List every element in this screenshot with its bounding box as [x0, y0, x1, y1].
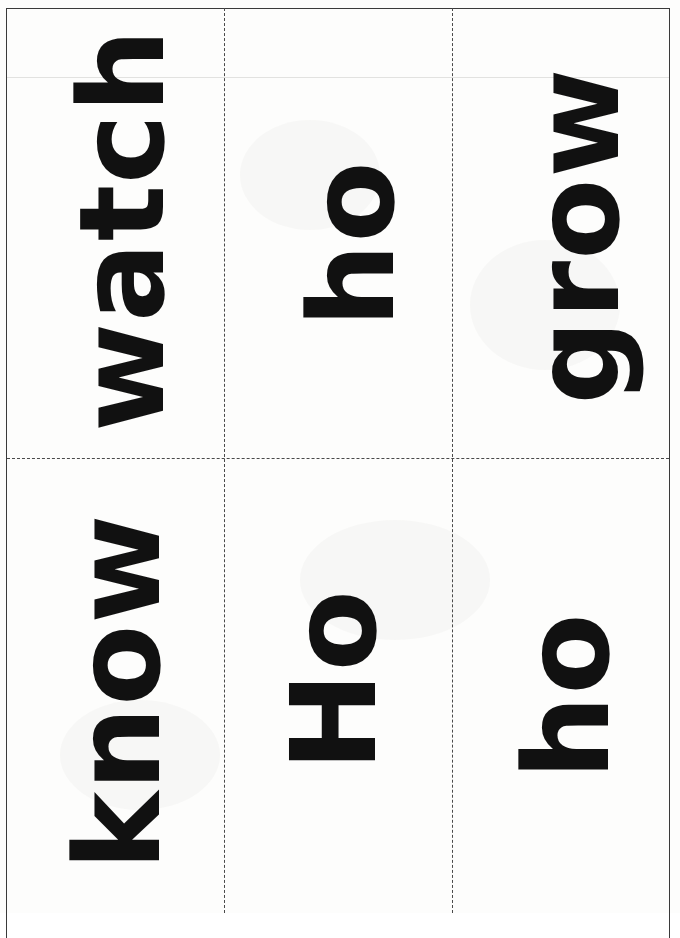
flashcard-ho-upper: ho — [224, 9, 452, 458]
flashcard-word-ho-upper: ho — [293, 160, 411, 327]
flashcard-know: know — [7, 458, 224, 913]
flashcard-ho-lower: ho — [452, 458, 669, 913]
flashcard-word-watch: watch — [63, 28, 181, 432]
flashcard-Ho: Ho — [224, 458, 452, 913]
flashcard-grow: grow — [452, 9, 669, 458]
flashcard-word-grow: grow — [518, 67, 636, 404]
flashcard-word-ho-lower: ho — [508, 612, 626, 779]
flashcard-grid: watch ho grow know Ho ho — [7, 9, 669, 913]
flashcard-word-Ho: Ho — [275, 589, 393, 771]
flashcard-watch: watch — [7, 9, 224, 458]
flashcard-word-know: know — [59, 513, 177, 870]
